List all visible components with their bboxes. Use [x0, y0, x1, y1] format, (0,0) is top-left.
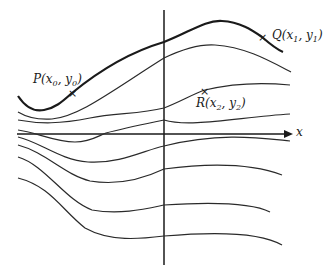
- x-axis-arrow-icon: [284, 130, 293, 138]
- point-R-sub-y: 2: [236, 103, 241, 112]
- point-P-sub-x: 0: [53, 79, 58, 88]
- point-Q-label: Q(x1, y1): [272, 28, 323, 44]
- point-P-marker-icon: ×: [68, 87, 77, 100]
- point-Q-name: Q: [272, 28, 282, 42]
- point-R-name: R: [196, 96, 205, 110]
- point-R-sub-x: 2: [217, 103, 222, 112]
- point-P-sub-y: 0: [72, 79, 77, 88]
- curve-8: [18, 178, 282, 245]
- point-Q-marker-icon: ×: [258, 31, 267, 44]
- point-P-name: P: [33, 72, 41, 86]
- curve-5: [18, 137, 290, 162]
- x-axis-label: x: [296, 125, 303, 139]
- point-Q-sub-x: 1: [293, 35, 298, 44]
- point-R-label: R(x2, y2): [196, 96, 246, 112]
- point-Q-sub-y: 1: [313, 35, 318, 44]
- point-P-label: P(x0, y0): [33, 72, 82, 88]
